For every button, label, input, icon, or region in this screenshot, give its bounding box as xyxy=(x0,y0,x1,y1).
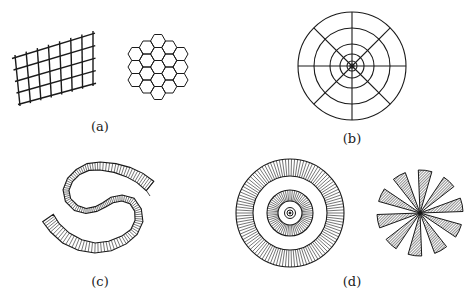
s-shaped-hatched-band xyxy=(43,162,154,253)
hexagonal-lattice xyxy=(128,35,188,100)
hatched-pinwheel xyxy=(377,170,463,256)
panel-label-a: (a) xyxy=(91,119,109,134)
panel-label-b: (b) xyxy=(343,131,361,146)
polar-grid xyxy=(298,12,406,120)
sheared-grid xyxy=(12,31,96,106)
figure-canvas xyxy=(0,0,472,300)
panel-label-c: (c) xyxy=(91,274,108,289)
concentric-hatched-rings xyxy=(236,159,344,267)
panel-label-d: (d) xyxy=(343,274,361,289)
